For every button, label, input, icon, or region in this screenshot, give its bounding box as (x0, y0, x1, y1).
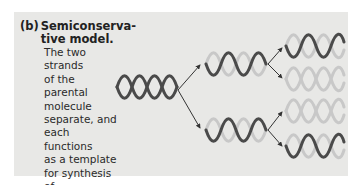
parent-helix-icon (117, 76, 177, 99)
arrow-icon (268, 48, 282, 64)
first-gen-helix-top-icon (206, 53, 266, 76)
second-gen-helix-3-icon (286, 99, 344, 123)
arrow-icon (268, 130, 282, 146)
arrow-icon (268, 112, 282, 130)
arrow-up-icon (178, 65, 200, 90)
second-gen-helix-4-icon (286, 134, 344, 158)
second-gen-helix-1-icon (286, 34, 344, 58)
replication-diagram (0, 0, 358, 185)
second-gen-helix-2-icon (286, 67, 344, 91)
arrow-down-icon (178, 90, 200, 128)
first-gen-helix-bottom-icon (206, 119, 266, 142)
arrow-icon (268, 64, 282, 78)
